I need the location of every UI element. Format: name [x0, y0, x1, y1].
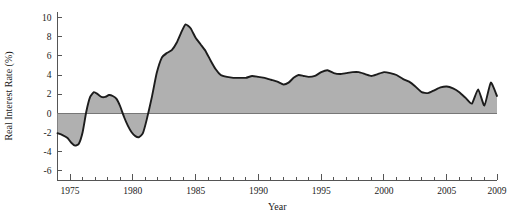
chart-figure: 1086420-2-4-6197519801985199019952000200… — [0, 0, 509, 220]
y-tick-label: -2 — [44, 128, 52, 138]
x-tick-label: 1995 — [312, 186, 331, 196]
x-tick-label: 1975 — [61, 186, 80, 196]
y-tick-label: -6 — [44, 166, 52, 176]
series-area-fill — [58, 24, 498, 145]
x-tick-label: 2000 — [374, 186, 393, 196]
x-tick-label: 2009 — [488, 186, 507, 196]
x-tick-label: 1990 — [249, 186, 268, 196]
x-tick-label: 1980 — [123, 186, 142, 196]
real-interest-rate-area-chart: 1086420-2-4-6197519801985199019952000200… — [0, 0, 509, 220]
x-axis-title: Year — [268, 201, 287, 212]
y-tick-label: 4 — [47, 70, 52, 80]
y-axis-title: Real Interest Rate (%) — [3, 51, 15, 140]
y-tick-label: 8 — [47, 32, 52, 42]
y-tick-label: 2 — [47, 89, 52, 99]
y-tick-label: 10 — [42, 13, 52, 23]
plot-area: 1086420-2-4-6197519801985199019952000200… — [3, 12, 507, 212]
y-tick-label: -4 — [44, 147, 52, 157]
x-tick-label: 2005 — [437, 186, 456, 196]
y-tick-label: 0 — [47, 109, 52, 119]
y-tick-label: 6 — [47, 51, 52, 61]
x-tick-label: 1985 — [186, 186, 205, 196]
